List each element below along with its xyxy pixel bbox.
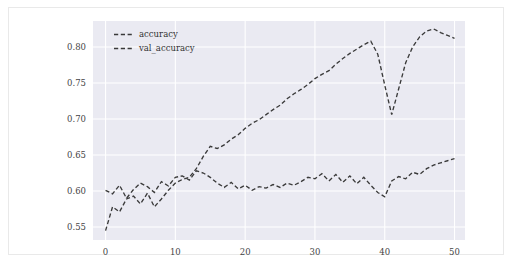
plot-area: 0.550.600.650.700.750.80 01020304050 acc… (93, 21, 465, 240)
x-tick-0: 0 (103, 247, 108, 257)
x-tick-50: 50 (449, 247, 460, 257)
y-tick-0.65: 0.65 (67, 150, 86, 160)
legend-entry-accuracy: accuracy (113, 29, 195, 39)
x-tick-20: 20 (240, 247, 251, 257)
y-tick-0.70: 0.70 (67, 114, 86, 124)
legend-dashed-line-icon (113, 44, 133, 53)
y-tick-0.55: 0.55 (67, 222, 86, 232)
y-tick-0.75: 0.75 (67, 78, 86, 88)
series-line-val_accuracy (106, 159, 455, 199)
legend-label: accuracy (139, 29, 178, 39)
legend-dashed-line-icon (113, 30, 133, 39)
x-tick-10: 10 (170, 247, 181, 257)
figure-canvas: 0.550.600.650.700.750.80 01020304050 acc… (8, 7, 504, 255)
chart-legend: accuracyval_accuracy (113, 29, 195, 53)
y-tick-0.60: 0.60 (67, 186, 86, 196)
series-lines (93, 21, 465, 240)
x-tick-30: 30 (310, 247, 321, 257)
series-line-accuracy (106, 29, 455, 231)
legend-entry-val_accuracy: val_accuracy (113, 43, 195, 53)
legend-label: val_accuracy (139, 43, 195, 53)
x-tick-40: 40 (379, 247, 390, 257)
y-tick-0.80: 0.80 (67, 42, 86, 52)
